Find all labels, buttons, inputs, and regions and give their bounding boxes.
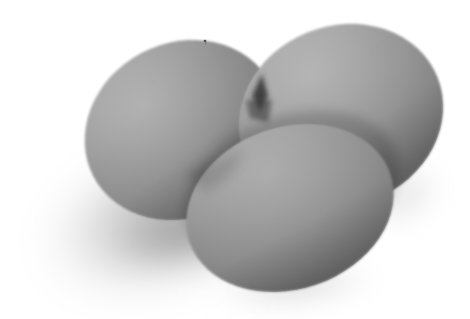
dust-speck-tail — [205, 42, 206, 45]
egg-photograph: Black and white photograph of three eggs… — [0, 0, 470, 319]
photo-canvas — [0, 0, 470, 319]
